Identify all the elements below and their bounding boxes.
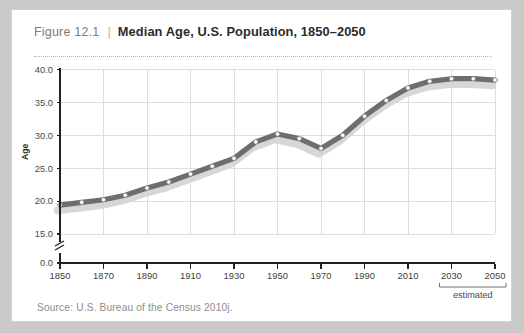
figure-card: Figure 12.1 | Median Age, U.S. Populatio… [11, 9, 512, 322]
svg-text:estimated: estimated [453, 290, 493, 300]
y-axis-tick-labels: 0.015.020.025.030.035.040.0 [35, 64, 53, 268]
svg-text:25.0: 25.0 [35, 163, 53, 174]
x-axis-tick-labels: 1850187018901910193019501970199020102030… [50, 270, 506, 281]
svg-text:40.0: 40.0 [35, 64, 53, 75]
svg-text:1930: 1930 [224, 270, 245, 281]
vertical-gridlines [104, 70, 496, 235]
svg-text:Age: Age [20, 143, 30, 159]
svg-text:1950: 1950 [267, 270, 288, 281]
chart-area: 0.015.020.025.030.035.040.0 185018701890… [12, 10, 513, 323]
svg-text:1850: 1850 [50, 270, 71, 281]
svg-text:1970: 1970 [311, 270, 332, 281]
line-shadow [58, 84, 493, 210]
svg-text:2050: 2050 [485, 270, 506, 281]
y-axis-title: Age [20, 143, 30, 159]
svg-text:20.0: 20.0 [35, 195, 53, 206]
svg-text:1870: 1870 [93, 270, 114, 281]
svg-text:2010: 2010 [398, 270, 419, 281]
svg-text:1890: 1890 [137, 270, 158, 281]
svg-text:30.0: 30.0 [35, 130, 53, 141]
svg-text:1990: 1990 [354, 270, 375, 281]
svg-text:2030: 2030 [441, 270, 462, 281]
estimated-annotation: estimated [440, 283, 507, 300]
svg-text:15.0: 15.0 [35, 228, 53, 239]
svg-text:1910: 1910 [180, 270, 201, 281]
source-caption: Source: U.S. Bureau of the Census 2010j. [37, 302, 233, 313]
svg-text:0.0: 0.0 [40, 257, 53, 268]
line-chart-svg: 0.015.020.025.030.035.040.0 185018701890… [12, 10, 513, 323]
svg-text:35.0: 35.0 [35, 97, 53, 108]
